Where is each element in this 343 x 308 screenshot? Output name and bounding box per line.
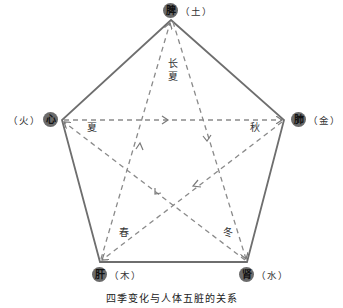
- arrow-liver-to-spleen: [101, 23, 170, 259]
- heart-badge: 心: [43, 112, 58, 127]
- season-late-summer: 长 夏: [168, 58, 178, 83]
- organ-liver: 肝 （木）: [92, 267, 142, 282]
- mid-arrow-autumn: [193, 180, 201, 187]
- season-winter: 冬: [223, 227, 233, 240]
- mid-arrow-liver-spleen: [136, 143, 143, 150]
- arrow-spleen-to-kidney: [173, 22, 246, 259]
- late-summer-char-1: 长: [168, 58, 178, 71]
- pentagon-outline: [62, 20, 284, 262]
- season-autumn: 秋: [250, 122, 260, 135]
- kidney-badge: 肾: [239, 267, 254, 282]
- liver-element: （木）: [109, 268, 142, 282]
- arrow-lung-to-liver-path: [102, 122, 282, 260]
- spleen-badge: 脾: [163, 3, 178, 18]
- organ-kidney: 肾 （水）: [239, 267, 289, 282]
- late-summer-char-2: 夏: [168, 71, 178, 84]
- lung-badge: 肺: [291, 112, 306, 127]
- mid-arrow-spleen-kidney: [203, 135, 211, 141]
- lung-element: （金）: [308, 113, 341, 127]
- spleen-element: （土）: [180, 4, 213, 18]
- liver-badge: 肝: [92, 267, 107, 282]
- organ-spleen: 脾 （土）: [163, 3, 213, 18]
- organ-heart: （火） 心: [8, 112, 58, 127]
- diagram-caption: 四季变化与人体五脏的关系: [0, 290, 343, 305]
- season-summer: 夏: [87, 122, 97, 135]
- heart-element: （火）: [8, 113, 41, 127]
- season-spring: 春: [119, 227, 129, 240]
- organ-lung: 肺 （金）: [291, 112, 341, 127]
- kidney-element: （水）: [256, 268, 289, 282]
- mid-arrow-spring: [155, 188, 161, 194]
- five-organs-diagram: [0, 0, 343, 308]
